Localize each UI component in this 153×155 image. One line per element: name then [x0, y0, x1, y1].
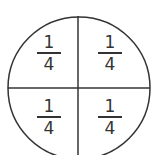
numerator: 1	[34, 97, 64, 115]
denominator: 4	[34, 119, 64, 137]
denominator: 4	[95, 55, 125, 73]
fraction-bottom-left: 1 4	[34, 97, 64, 137]
numerator: 1	[34, 33, 64, 51]
fraction-top-right: 1 4	[95, 33, 125, 73]
denominator: 4	[95, 119, 125, 137]
denominator: 4	[34, 55, 64, 73]
fraction-bottom-right: 1 4	[95, 97, 125, 137]
fraction-top-left: 1 4	[34, 33, 64, 73]
numerator: 1	[95, 33, 125, 51]
circle-diagram	[0, 0, 153, 155]
numerator: 1	[95, 97, 125, 115]
circle-outline	[8, 17, 150, 155]
